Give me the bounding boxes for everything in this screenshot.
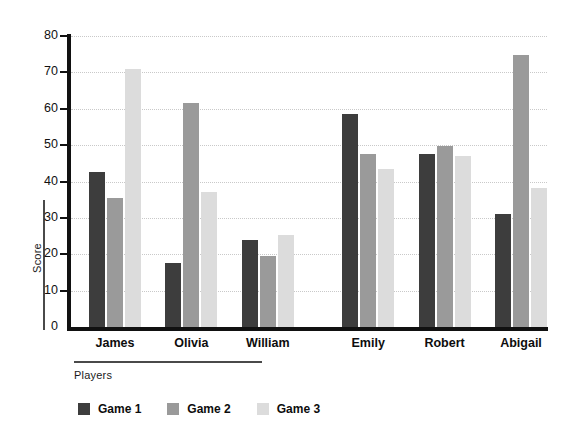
legend-item-game-2[interactable]: Game 2 xyxy=(167,402,230,416)
gridlines xyxy=(71,36,547,327)
bar-game-3-olivia[interactable] xyxy=(201,192,217,327)
bar-game-3-emily[interactable] xyxy=(378,169,394,327)
bar-chart: Score 01020304050607080 JamesOliviaWilli… xyxy=(0,0,581,437)
bar-game-1-james[interactable] xyxy=(89,172,105,327)
x-axis-spine xyxy=(67,327,548,331)
bar-game-2-robert[interactable] xyxy=(437,146,453,327)
y-axis-tick-label: 80 xyxy=(18,28,58,42)
gridline xyxy=(71,254,547,255)
bar-group xyxy=(342,36,394,327)
legend: Game 1Game 2Game 3 xyxy=(78,402,346,416)
legend-item-game-1[interactable]: Game 1 xyxy=(78,402,141,416)
gridline xyxy=(71,291,547,292)
bar-game-3-abigail[interactable] xyxy=(531,188,547,327)
x-axis-label-rule xyxy=(74,361,262,363)
legend-swatch-icon xyxy=(257,403,269,415)
bar-group xyxy=(495,36,547,327)
x-axis-category-label-william: William xyxy=(218,336,318,350)
legend-swatch-icon xyxy=(167,403,179,415)
y-axis-tick-label: 60 xyxy=(18,101,58,115)
bar-game-2-william[interactable] xyxy=(260,256,276,327)
bar-group xyxy=(165,36,217,327)
bar-group xyxy=(242,36,294,327)
y-axis-tick-labels: 01020304050607080 xyxy=(14,0,58,437)
bar-game-3-robert[interactable] xyxy=(455,156,471,327)
legend-label: Game 1 xyxy=(98,402,141,416)
y-axis-tick-label: 20 xyxy=(18,246,58,260)
bar-game-3-william[interactable] xyxy=(278,235,294,327)
legend-swatch-icon xyxy=(78,403,90,415)
y-axis-tick-label: 70 xyxy=(18,64,58,78)
y-axis-tick-label: 50 xyxy=(18,137,58,151)
x-axis-category-label-abigail: Abigail xyxy=(471,336,571,350)
bar-game-2-olivia[interactable] xyxy=(183,103,199,327)
legend-label: Game 2 xyxy=(187,402,230,416)
bar-game-1-olivia[interactable] xyxy=(165,263,181,327)
bar-game-1-emily[interactable] xyxy=(342,114,358,327)
y-axis-tick-label: 40 xyxy=(18,174,58,188)
bar-group xyxy=(89,36,141,327)
bar-game-3-james[interactable] xyxy=(125,69,141,327)
y-axis-tick-label: 30 xyxy=(18,210,58,224)
legend-item-game-3[interactable]: Game 3 xyxy=(257,402,320,416)
bar-game-1-abigail[interactable] xyxy=(495,214,511,327)
bar-game-1-robert[interactable] xyxy=(419,154,435,327)
bar-game-2-james[interactable] xyxy=(107,198,123,327)
y-axis-tick-label: 0 xyxy=(18,319,58,333)
legend-label: Game 3 xyxy=(277,402,320,416)
bar-game-1-william[interactable] xyxy=(242,240,258,327)
bar-game-2-abigail[interactable] xyxy=(513,55,529,327)
plot-area xyxy=(71,36,547,327)
bar-game-2-emily[interactable] xyxy=(360,154,376,327)
gridline xyxy=(71,109,547,110)
bar-group xyxy=(419,36,471,327)
gridline xyxy=(71,218,547,219)
x-axis-label: Players xyxy=(74,369,112,381)
gridline xyxy=(71,182,547,183)
y-axis-tick-label: 10 xyxy=(18,283,58,297)
gridline xyxy=(71,36,547,37)
gridline xyxy=(71,72,547,73)
gridline xyxy=(71,145,547,146)
